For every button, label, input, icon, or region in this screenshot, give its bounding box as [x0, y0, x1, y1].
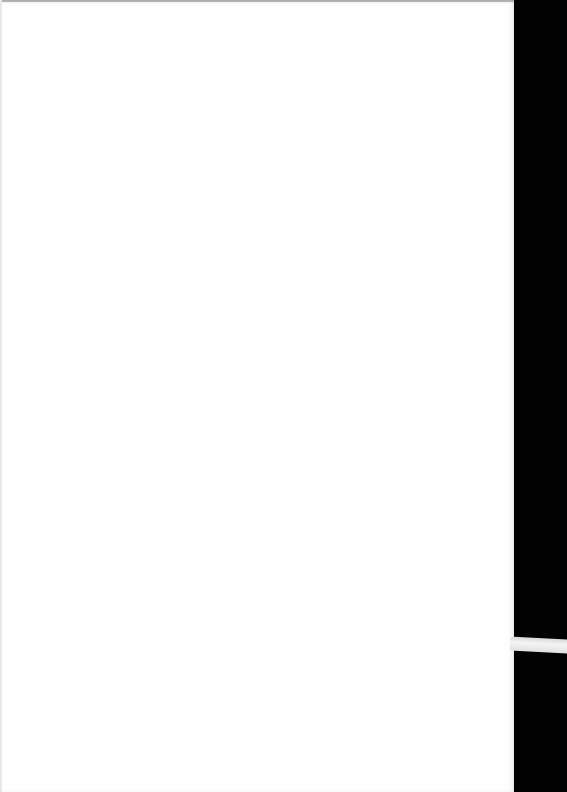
page-left-edge: [0, 0, 2, 792]
scanner-bed-background: [514, 0, 567, 792]
page-top-edge-shadow: [0, 0, 514, 2]
paper-strip: [510, 637, 567, 654]
blank-scanned-page: [0, 0, 514, 792]
